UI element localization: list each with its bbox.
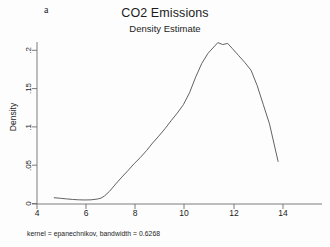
density-plot-figure: a CO2 Emissions Density Estimate Density… (0, 0, 330, 247)
kernel-footnote: kernel = epanechnikov, bandwidth = 0.626… (27, 230, 160, 237)
plot-canvas (0, 0, 330, 247)
y-axis-ticks (32, 50, 37, 203)
density-curve-line (54, 43, 278, 200)
x-axis-ticks (37, 204, 283, 209)
axis-lines (32, 42, 322, 204)
